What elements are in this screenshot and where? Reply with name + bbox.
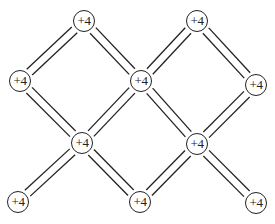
node-n3: +4 (9, 70, 31, 92)
edge-line (88, 88, 129, 131)
node-n4: +4 (130, 70, 152, 92)
edge-line (32, 87, 76, 131)
edge-line (203, 33, 244, 78)
edge-line (153, 33, 191, 74)
edge-line (88, 155, 128, 195)
edge-line (32, 33, 77, 75)
node-n8: +4 (7, 191, 29, 213)
edge-line (203, 156, 244, 197)
lattice-diagram: +4+4+4+4+4+4+4+4+4+4 (0, 0, 275, 224)
edge-line (90, 33, 129, 74)
edge-line (26, 93, 70, 137)
node-n7: +4 (186, 133, 208, 155)
edge-line (30, 155, 75, 196)
edge-line (25, 149, 70, 190)
edge-line (147, 93, 186, 137)
node-n1: +4 (73, 10, 95, 32)
edge-line (147, 28, 185, 69)
edge-line (203, 91, 244, 132)
edge-line (209, 97, 250, 138)
edge-line (96, 28, 135, 69)
node-n2: +4 (186, 10, 208, 32)
node-n5: +4 (245, 74, 267, 96)
node-n10: +4 (245, 192, 267, 214)
node-n6: +4 (71, 132, 93, 154)
edge-line (146, 150, 185, 189)
node-n9: +4 (129, 191, 151, 213)
edge-line (94, 149, 134, 189)
edge-line (27, 27, 72, 69)
edge-line (152, 156, 191, 195)
edge-line (209, 150, 250, 191)
edge-line (153, 88, 192, 132)
edge-line (209, 28, 250, 73)
edge-line (94, 93, 135, 136)
